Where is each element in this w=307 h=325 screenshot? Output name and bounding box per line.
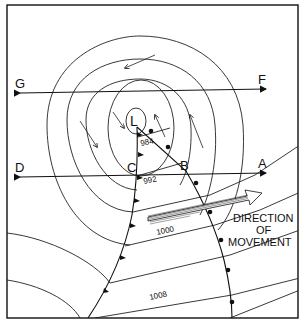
label-b: B: [180, 158, 189, 173]
annotation-of: OF: [256, 224, 272, 236]
annotation-direction: DIRECTION: [233, 212, 294, 224]
label-g: G: [15, 76, 25, 91]
label-a: A: [258, 156, 267, 171]
label-d: D: [15, 160, 24, 175]
label-f: F: [258, 72, 266, 87]
annotation-movement: MOVEMENT: [228, 236, 292, 248]
low-center-label: L: [130, 113, 138, 129]
depression-diagram: G F D A C B L 984 992 1000 1008 DIRECTIO…: [0, 0, 307, 325]
label-c: C: [127, 160, 136, 175]
